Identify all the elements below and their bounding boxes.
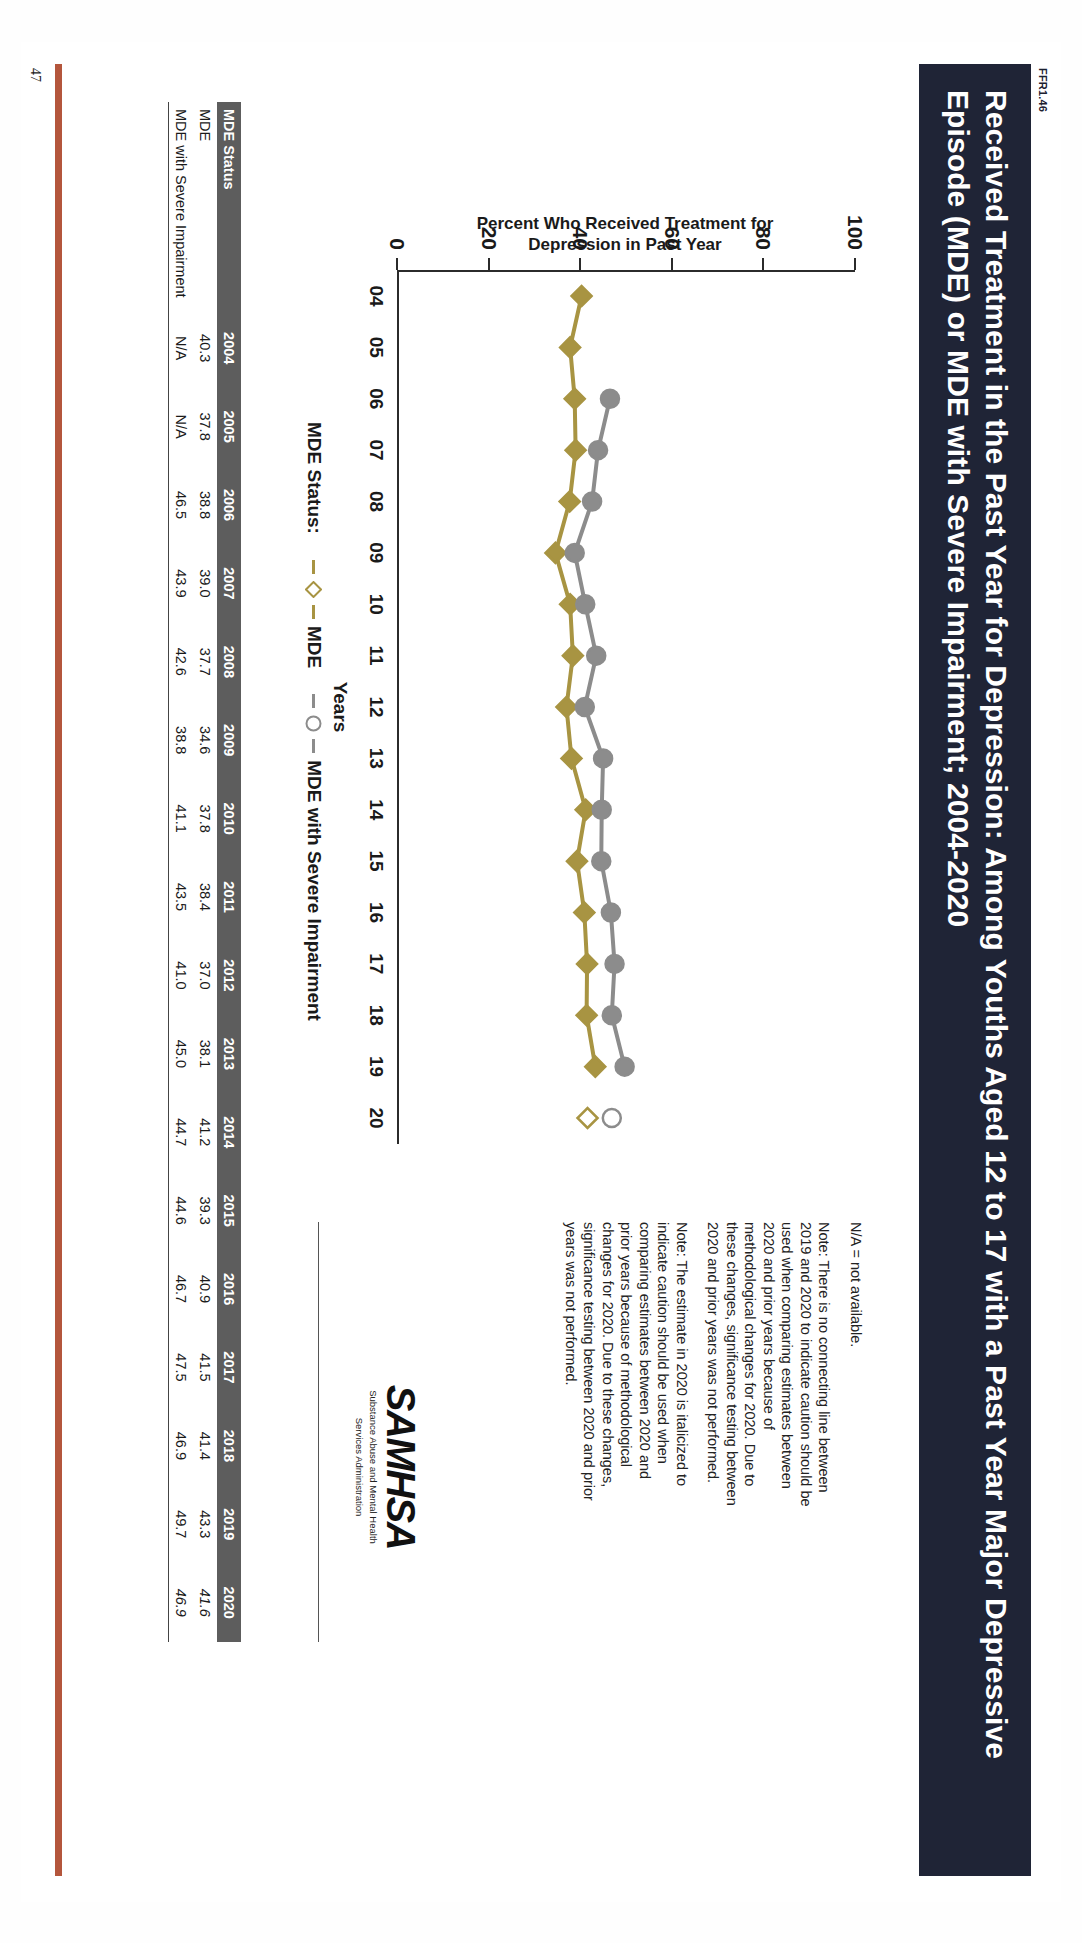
table-header-row: MDE Status 20042005200620072008200920102… [217, 102, 241, 1642]
table-column-header: 2016 [217, 1249, 241, 1327]
table-cell: 37.0 [193, 936, 217, 1014]
data-point-diamond [563, 645, 583, 665]
legend-label: MDE with Severe Impairment [303, 760, 325, 1021]
table-column-header: 2013 [217, 1014, 241, 1092]
table-column-header: 2017 [217, 1328, 241, 1406]
table-cell: 38.4 [193, 857, 217, 935]
legend-label: MDE [303, 625, 325, 667]
data-point-circle [576, 698, 594, 716]
x-axis-tick-label: 20 [365, 1107, 387, 1128]
legend-item-mde-severe[interactable]: MDE with Severe Impairment [303, 694, 325, 1021]
note-paragraph: N/A = not available. [847, 1222, 866, 1512]
table-cell: 37.7 [193, 622, 217, 700]
table-cell: 47.5 [169, 1328, 194, 1406]
data-point-diamond [578, 1108, 598, 1128]
data-point-diamond [577, 1005, 597, 1025]
data-point-diamond [556, 697, 576, 717]
table-column-header: 2019 [217, 1485, 241, 1563]
plot-area: Years 0204060801000405060708091011121314… [397, 270, 855, 1144]
y-axis-tick [396, 258, 398, 270]
series-layer [705, 270, 855, 570]
data-table: MDE Status 20042005200620072008200920102… [168, 102, 241, 1642]
x-axis-tick-label: 13 [365, 747, 387, 768]
table-cell: 46.5 [169, 465, 194, 543]
data-point-circle [587, 646, 605, 664]
data-point-circle [583, 492, 601, 510]
table-row: MDE with Severe ImpairmentN/AN/A46.543.9… [169, 102, 194, 1642]
table-column-header: 2014 [217, 1093, 241, 1171]
table-cell: 43.5 [169, 857, 194, 935]
y-axis-tick [671, 258, 673, 270]
x-axis-tick-label: 11 [365, 645, 387, 665]
x-axis-tick-label: 14 [365, 799, 387, 820]
table-cell: 41.1 [169, 779, 194, 857]
table-cell: 41.6 [193, 1563, 217, 1642]
legend-dash-icon [313, 739, 316, 753]
title-band: Received Treatment in the Past Year for … [919, 64, 1031, 1876]
table-column-header: 2012 [217, 936, 241, 1014]
table-cell: 43.9 [169, 544, 194, 622]
table-column-header: 2011 [217, 857, 241, 935]
data-point-diamond [560, 337, 580, 357]
circle-icon [306, 715, 323, 732]
x-axis-tick-label: 19 [365, 1056, 387, 1077]
y-axis-title: Percent Who Received Treatment for Depre… [475, 213, 775, 255]
table-column-header: 2007 [217, 544, 241, 622]
x-axis-tick-label: 07 [365, 439, 387, 460]
table-column-header: 2005 [217, 387, 241, 465]
x-axis-tick-label: 18 [365, 1004, 387, 1025]
data-point-circle [606, 954, 624, 972]
data-point-diamond [561, 748, 581, 768]
table-row-header-label: MDE Status [217, 102, 241, 309]
data-point-circle [592, 852, 610, 870]
data-point-circle [576, 595, 594, 613]
table-body: MDE40.337.838.839.037.734.637.838.437.03… [169, 102, 218, 1642]
data-point-circle [589, 441, 607, 459]
table-row: MDE40.337.838.839.037.734.637.838.437.03… [193, 102, 217, 1642]
table-cell: 41.0 [169, 936, 194, 1014]
data-point-circle [616, 1057, 634, 1075]
table-cell: 46.9 [169, 1406, 194, 1484]
table-cell: 38.1 [193, 1014, 217, 1092]
x-axis-line [397, 270, 399, 1144]
table-row-label: MDE [193, 102, 217, 309]
data-point-diamond [574, 902, 594, 922]
table-cell: 41.4 [193, 1406, 217, 1484]
page-title: Received Treatment in the Past Year for … [939, 90, 1015, 1846]
table-column-header: 2008 [217, 622, 241, 700]
notes-block: N/A = not available.Note: There is no co… [549, 1222, 866, 1512]
x-axis-tick-label: 16 [365, 901, 387, 922]
data-point-diamond [565, 388, 585, 408]
table-cell: N/A [169, 309, 194, 387]
table-column-header: 2006 [217, 465, 241, 543]
table-cell: 43.3 [193, 1485, 217, 1563]
data-point-circle [601, 389, 619, 407]
y-axis-tick-label: 80 [751, 226, 775, 249]
table-cell: 41.5 [193, 1328, 217, 1406]
data-point-diamond [560, 491, 580, 511]
table-cell: 37.8 [193, 779, 217, 857]
data-point-diamond [566, 440, 586, 460]
x-axis-tick-label: 15 [365, 850, 387, 871]
table-column-header: 2020 [217, 1563, 241, 1642]
divider [318, 1222, 319, 1642]
legend-dash-icon [313, 604, 316, 618]
table-cell: 37.8 [193, 387, 217, 465]
x-axis-title: Years [329, 270, 351, 1144]
data-point-circle [603, 1109, 621, 1127]
table-column-header: 2018 [217, 1406, 241, 1484]
table-row-label: MDE with Severe Impairment [169, 102, 194, 309]
data-point-circle [603, 1006, 621, 1024]
x-axis-tick-label: 05 [365, 336, 387, 357]
legend-dash-icon [313, 559, 316, 573]
table-cell: 38.8 [193, 465, 217, 543]
table-cell: 44.7 [169, 1093, 194, 1171]
table-cell: 46.7 [169, 1249, 194, 1327]
table-cell: 38.8 [169, 701, 194, 779]
y-axis-tick-label: 0 [385, 238, 409, 250]
samhsa-wordmark: SAMHSA [381, 1342, 421, 1592]
diamond-icon [306, 580, 323, 597]
y-axis-tick-label: 100 [843, 214, 867, 249]
data-point-circle [602, 903, 620, 921]
legend-item-mde[interactable]: MDE [303, 559, 325, 667]
